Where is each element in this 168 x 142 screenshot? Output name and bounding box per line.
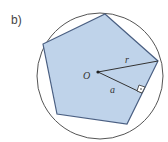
right-angle-marker (137, 85, 145, 93)
pentagon (43, 14, 158, 124)
radius-label: r (125, 54, 129, 65)
apothem-label: a (110, 84, 115, 95)
center-label: O (83, 70, 90, 81)
pentagon-diagram: O r a (0, 0, 168, 142)
center-point (96, 70, 99, 73)
